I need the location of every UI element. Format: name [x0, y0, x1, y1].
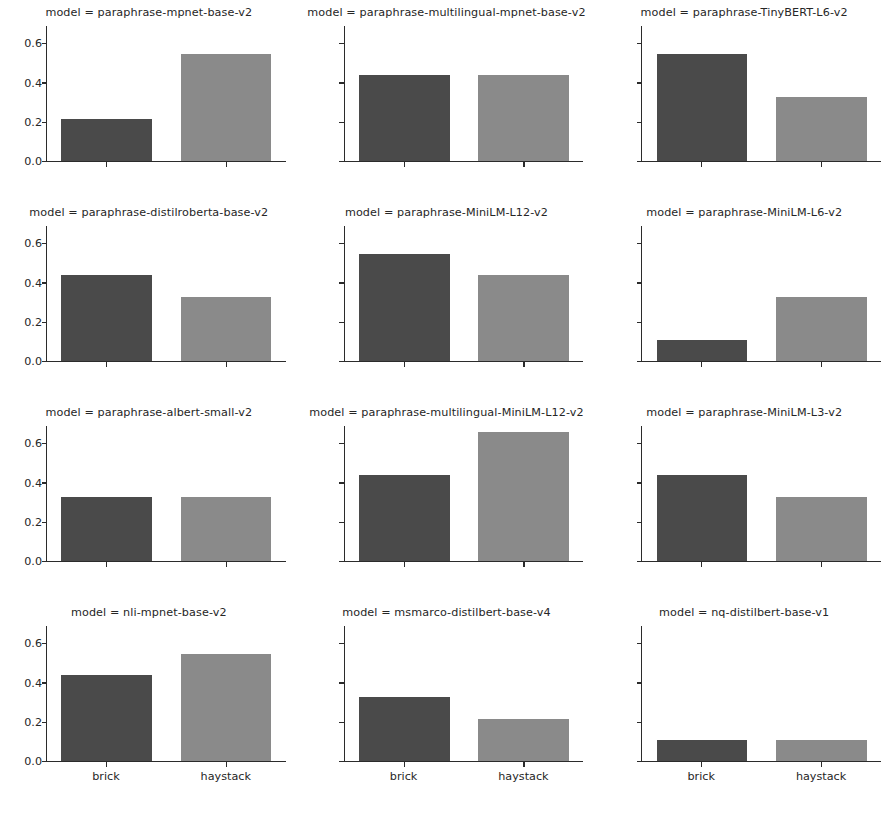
bar-haystack — [776, 97, 867, 161]
y-axis-tick — [42, 522, 47, 523]
bar-series — [642, 426, 881, 561]
bar-series — [642, 626, 881, 761]
facet-title: model = paraphrase-MiniLM-L12-v2 — [298, 206, 596, 219]
y-axis-tick — [637, 43, 642, 44]
bar-brick — [657, 340, 748, 361]
x-axis-tick-label: brick — [390, 771, 417, 782]
y-axis-tick — [42, 482, 47, 483]
y-axis-tick — [42, 443, 47, 444]
x-axis-spine — [641, 161, 881, 162]
x-axis-tick-label: brick — [688, 771, 715, 782]
y-axis-tick-label: 0.4 — [24, 478, 42, 489]
y-axis-tick — [339, 761, 344, 762]
facet-panel: model = paraphrase-distilroberta-base-v2… — [0, 200, 298, 400]
bar-series — [47, 226, 286, 361]
y-axis-tick — [637, 522, 642, 523]
bar-haystack — [181, 654, 272, 761]
x-axis-tick — [106, 362, 107, 367]
facet-title: model = paraphrase-albert-small-v2 — [0, 406, 298, 419]
y-axis-tick-label: 0.2 — [24, 317, 42, 328]
bar-series — [345, 26, 584, 161]
y-axis-tick — [339, 443, 344, 444]
bar-series — [47, 626, 286, 761]
x-axis-tick — [404, 762, 405, 767]
bar-brick — [359, 697, 450, 761]
plot-area — [641, 226, 881, 362]
plot-area: brickhaystack — [641, 626, 881, 762]
y-axis-tick — [637, 322, 642, 323]
plot-area — [344, 426, 584, 562]
y-axis-tick-label: 0.0 — [24, 156, 42, 167]
y-axis-tick — [339, 282, 344, 283]
x-axis-tick — [701, 762, 702, 767]
y-axis-tick — [42, 643, 47, 644]
bar-brick — [61, 119, 152, 161]
x-axis-tick — [701, 562, 702, 567]
plot-area — [641, 26, 881, 162]
y-axis-tick — [637, 361, 642, 362]
facet-panel: model = paraphrase-multilingual-mpnet-ba… — [298, 0, 596, 200]
x-axis-tick — [226, 162, 227, 167]
bar-series — [47, 426, 286, 561]
x-axis-tick-label: haystack — [201, 771, 251, 782]
facet-title: model = paraphrase-multilingual-mpnet-ba… — [298, 6, 596, 19]
x-axis-tick — [226, 562, 227, 567]
x-axis-tick — [701, 362, 702, 367]
y-axis-tick — [339, 522, 344, 523]
facet-title: model = paraphrase-TinyBERT-L6-v2 — [595, 6, 893, 19]
facet-panel: model = nq-distilbert-base-v1brickhaysta… — [595, 600, 893, 800]
bar-haystack — [181, 297, 272, 361]
x-axis-tick — [523, 162, 524, 167]
facet-title: model = paraphrase-distilroberta-base-v2 — [0, 206, 298, 219]
y-axis-tick — [339, 643, 344, 644]
y-axis-tick — [339, 82, 344, 83]
y-axis-tick — [637, 122, 642, 123]
y-axis-tick-label: 0.0 — [24, 556, 42, 567]
x-axis-spine — [344, 761, 584, 762]
bar-series — [642, 26, 881, 161]
plot-area — [641, 426, 881, 562]
bar-brick — [657, 54, 748, 161]
x-axis-tick — [226, 762, 227, 767]
plot-area — [344, 26, 584, 162]
y-axis-tick — [42, 361, 47, 362]
x-axis-spine — [46, 761, 286, 762]
x-axis-tick — [404, 362, 405, 367]
facet-panel: model = paraphrase-MiniLM-L12-v2 — [298, 200, 596, 400]
y-axis-tick-label: 0.0 — [24, 356, 42, 367]
y-axis-tick — [637, 82, 642, 83]
y-axis-tick-label: 0.6 — [24, 239, 42, 250]
bar-haystack — [776, 740, 867, 761]
bar-series — [642, 226, 881, 361]
y-axis-tick-label: 0.2 — [24, 117, 42, 128]
facet-panel: model = paraphrase-TinyBERT-L6-v2 — [595, 0, 893, 200]
y-axis-tick — [339, 322, 344, 323]
y-axis-tick-label: 0.0 — [24, 756, 42, 767]
y-axis-tick — [339, 43, 344, 44]
y-axis-tick-label: 0.6 — [24, 439, 42, 450]
bar-haystack — [181, 54, 272, 161]
y-axis-tick — [339, 561, 344, 562]
bar-brick — [359, 75, 450, 161]
y-axis-tick — [637, 161, 642, 162]
figure-bottom-label — [0, 806, 893, 818]
bar-haystack — [181, 497, 272, 561]
x-axis-tick — [701, 162, 702, 167]
y-axis-tick — [42, 122, 47, 123]
x-axis-tick — [523, 762, 524, 767]
y-axis-tick — [42, 43, 47, 44]
y-axis-tick — [42, 561, 47, 562]
y-axis-tick — [637, 443, 642, 444]
facet-panel: model = msmarco-distilbert-base-v4brickh… — [298, 600, 596, 800]
y-axis-tick — [42, 322, 47, 323]
x-axis-tick — [106, 562, 107, 567]
bar-haystack — [478, 432, 569, 561]
x-axis-tick-label: brick — [92, 771, 119, 782]
x-axis-spine — [344, 161, 584, 162]
x-axis-tick — [404, 162, 405, 167]
facet-panel: model = paraphrase-MiniLM-L3-v2 — [595, 400, 893, 600]
x-axis-spine — [46, 161, 286, 162]
bar-haystack — [776, 497, 867, 561]
x-axis-tick — [821, 762, 822, 767]
facet-title: model = paraphrase-MiniLM-L6-v2 — [595, 206, 893, 219]
